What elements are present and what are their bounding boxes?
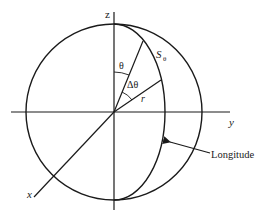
delta-theta-angle-arc — [122, 92, 132, 100]
theta-radius-line — [114, 41, 143, 112]
theta-angle-arc — [114, 72, 129, 75]
sphere-diagram: z y x θ Δθ r S θ Longitude — [0, 0, 269, 218]
longitude-arrow-icon — [170, 142, 210, 153]
radius-label: r — [141, 93, 145, 104]
theta-label: θ — [119, 60, 124, 71]
y-axis-label: y — [228, 116, 234, 128]
x-axis-label: x — [26, 188, 32, 200]
x-axis — [34, 112, 114, 197]
arc-label-subscript: θ — [163, 55, 167, 63]
diagram-canvas: z y x θ Δθ r S θ Longitude — [0, 0, 269, 218]
delta-theta-label: Δθ — [127, 79, 138, 90]
z-axis-label: z — [105, 8, 110, 20]
longitude-label: Longitude — [211, 149, 254, 160]
arc-label-s: S — [156, 48, 162, 60]
